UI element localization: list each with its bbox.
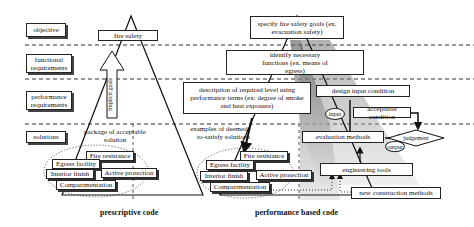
level-objective: objective — [26, 23, 66, 37]
goals-box: specify fire safety goals (ex. evacuatio… — [250, 16, 344, 39]
design-input-box: design input condition — [316, 85, 410, 97]
item-interior-finish: Interior finish — [46, 169, 94, 179]
prescriptive-caption: prescriptive code — [100, 208, 158, 217]
output-bubble: output — [385, 141, 405, 152]
pb-item-compartmentation: Compartmentation — [210, 182, 270, 192]
engineering-tools-box: engineering tools — [320, 163, 413, 176]
functions-box: identify necessary functions (ex. means … — [226, 50, 364, 75]
pb-item-active-protection: Active protection — [256, 170, 312, 180]
level-functional: functional requirements — [26, 54, 72, 73]
implicit-goals-label: Implicit goals — [106, 72, 120, 116]
acceptable-condition-box: acceptable condition — [353, 107, 411, 118]
performance-caption: performance based code — [255, 208, 338, 217]
item-egress-facility: Egress facility — [52, 159, 100, 169]
package-label: package of acceptable solution — [80, 128, 150, 144]
item-compartmentation: Compartmentation — [56, 180, 116, 190]
pb-item-interior-finish: Interior finish — [200, 171, 248, 181]
fire-safety-box: fire safety — [98, 30, 158, 41]
judgement-label: judgement — [396, 134, 436, 142]
item-active-protection: Active protection — [101, 168, 157, 178]
level-solutions: solutions — [26, 131, 66, 143]
examples-label: examples of deemed-to-satisfy solutions — [190, 125, 250, 141]
input-bubble: input — [325, 108, 345, 120]
description-box: description of required level using perf… — [183, 82, 311, 114]
level-performance: performance requirements — [26, 91, 72, 110]
new-construction-methods-box: new construction methods — [351, 187, 441, 199]
pb-item-egress-facility: Egress facility — [206, 160, 254, 170]
evaluation-methods-box: evaluation methods — [302, 131, 384, 143]
